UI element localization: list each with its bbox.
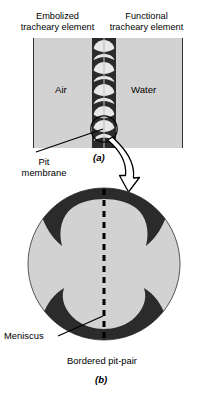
- panel-a-headers: Embolized tracheary element Functional t…: [0, 11, 204, 33]
- panel-a-caption: (a): [93, 152, 105, 163]
- figure-air-seeding-bordered-pit: Embolized tracheary element Functional t…: [0, 0, 204, 399]
- water-label: Water: [131, 84, 156, 95]
- air-label: Air: [55, 84, 67, 95]
- functional-header: Functional tracheary element: [106, 11, 188, 33]
- pit-membrane-label: Pit membrane: [5, 156, 83, 179]
- meniscus-label: Meniscus: [4, 330, 44, 341]
- embolized-header: Embolized tracheary element: [17, 11, 99, 33]
- panel-b-caption: (b): [95, 374, 107, 385]
- panel-b-group: [28, 188, 180, 340]
- bordered-pit-pair-label: Bordered pit-pair: [0, 355, 204, 366]
